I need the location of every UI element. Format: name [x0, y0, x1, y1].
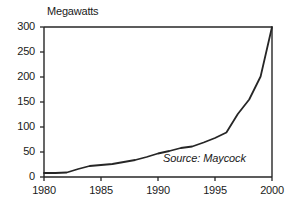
y-tick-label: 100: [3, 120, 35, 132]
x-tick-label: 1985: [81, 184, 121, 196]
x-tick-label: 1980: [24, 184, 64, 196]
y-tick-label: 50: [3, 145, 35, 157]
y-tick-label: 0: [3, 170, 35, 182]
source-annotation: Source: Maycock: [163, 152, 246, 164]
x-tick-label: 2000: [252, 184, 292, 196]
x-tick-label: 1995: [195, 184, 235, 196]
x-tick-label: 1990: [138, 184, 178, 196]
y-tick-label: 250: [3, 45, 35, 57]
y-tick-label: 150: [3, 95, 35, 107]
chart-figure: Megawatts 050100150200250300 19801985199…: [0, 0, 304, 220]
y-tick-label: 200: [3, 70, 35, 82]
figure-caption: [0, 212, 304, 220]
y-tick-label: 300: [3, 20, 35, 32]
